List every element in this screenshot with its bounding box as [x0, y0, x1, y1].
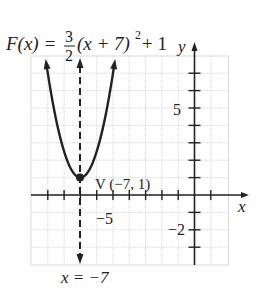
axis-of-symmetry-label: x = −7: [60, 268, 110, 287]
parabola-graph: F(x) = 3 2 (x + 7) 2 + 1 y x 5 −2 −5 V (…: [0, 0, 257, 293]
x-tick-label-neg5: −5: [96, 210, 113, 227]
axis-of-symmetry-line: [77, 58, 84, 264]
svg-text:2: 2: [135, 28, 141, 42]
y-axis-label: y: [176, 37, 186, 56]
x-axis-label: x: [237, 197, 246, 216]
y-tick-label-5: 5: [173, 101, 181, 118]
svg-text:F(x) =: F(x) =: [5, 33, 56, 55]
vertex-point: [76, 174, 84, 182]
function-title: F(x) = 3 2 (x + 7) 2 + 1: [5, 28, 167, 64]
svg-text:(x + 7): (x + 7): [77, 33, 130, 55]
y-tick-label-neg2: −2: [168, 221, 185, 238]
svg-text:+ 1: + 1: [142, 33, 167, 54]
svg-text:2: 2: [65, 47, 73, 64]
svg-text:3: 3: [65, 28, 73, 45]
vertex-label: V (−7, 1): [95, 176, 150, 193]
y-axis: [192, 42, 198, 265]
